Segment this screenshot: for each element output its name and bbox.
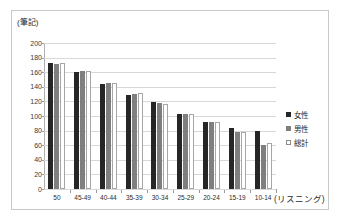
y-axis-tick-label: 180 xyxy=(20,54,42,61)
bar-group xyxy=(224,43,250,189)
legend-swatch-icon xyxy=(286,140,291,145)
bar-group xyxy=(121,43,147,189)
bar[interactable] xyxy=(255,131,260,189)
x-axis-tick-mark xyxy=(199,190,200,193)
gridline xyxy=(44,189,276,190)
legend-item-label: 女性 xyxy=(294,109,308,120)
y-axis-tick-labels: 020406080100120140160180200 xyxy=(18,43,42,189)
bar[interactable] xyxy=(163,104,168,189)
x-axis-tick-label: 45-49 xyxy=(70,194,96,202)
legend-item[interactable]: 男性 xyxy=(286,121,330,135)
y-axis-tick-mark xyxy=(41,160,44,161)
bar-group xyxy=(96,43,122,189)
y-axis-tick-label: 80 xyxy=(20,127,42,134)
y-axis-tick-mark xyxy=(41,43,44,44)
bar[interactable] xyxy=(126,95,131,189)
legend-item-label: 総計 xyxy=(294,137,308,148)
y-axis-tick-mark xyxy=(41,174,44,175)
y-axis-tick-mark xyxy=(41,101,44,102)
legend-swatch-icon xyxy=(286,112,291,117)
x-axis-tick-label: 10-14 xyxy=(250,194,276,202)
x-axis-tick-label: 50 xyxy=(44,194,70,202)
bar[interactable] xyxy=(132,94,137,189)
y-axis-tick-label: 0 xyxy=(20,186,42,193)
bar[interactable] xyxy=(183,114,188,189)
y-axis-tick-mark xyxy=(41,58,44,59)
legend-swatch-icon xyxy=(286,126,291,131)
y-axis-tick-mark xyxy=(41,87,44,88)
bar-group xyxy=(70,43,96,189)
bar[interactable] xyxy=(241,132,246,189)
legend-item[interactable]: 総計 xyxy=(286,135,330,149)
x-axis-title: (リスニング) xyxy=(274,192,325,204)
bar[interactable] xyxy=(261,145,266,189)
bar-group xyxy=(173,43,199,189)
bar[interactable] xyxy=(74,72,79,189)
y-axis-tick-label: 100 xyxy=(20,113,42,120)
x-axis-tick-label: 25-29 xyxy=(173,194,199,202)
bar[interactable] xyxy=(106,83,111,189)
y-axis-tick-label: 20 xyxy=(20,171,42,178)
y-axis-tick-mark xyxy=(41,145,44,146)
bar[interactable] xyxy=(215,122,220,189)
y-axis-tick-mark xyxy=(41,116,44,117)
bar[interactable] xyxy=(48,63,53,189)
bar-group xyxy=(250,43,276,189)
bar[interactable] xyxy=(235,132,240,189)
x-axis-tick-mark xyxy=(173,190,174,193)
x-axis-tick-label: 30-34 xyxy=(147,194,173,202)
bar[interactable] xyxy=(60,63,65,189)
x-axis-tick-mark xyxy=(276,190,277,193)
y-axis-tick-mark xyxy=(41,131,44,132)
bar[interactable] xyxy=(177,114,182,189)
chart-frame: (筆記) 020406080100120140160180200 (リスニング)… xyxy=(11,10,329,210)
bar[interactable] xyxy=(229,128,234,189)
x-axis-tick-label: 35-39 xyxy=(121,194,147,202)
y-axis-tick-label: 120 xyxy=(20,98,42,105)
bar[interactable] xyxy=(189,114,194,189)
y-axis-tick-label: 160 xyxy=(20,69,42,76)
x-axis-tick-mark xyxy=(70,190,71,193)
x-axis-tick-mark xyxy=(147,190,148,193)
bar[interactable] xyxy=(157,103,162,189)
x-axis-tick-label: 15-19 xyxy=(224,194,250,202)
bar[interactable] xyxy=(54,64,59,189)
legend-item[interactable]: 女性 xyxy=(286,107,330,121)
x-axis-tick-label: 40-44 xyxy=(96,194,122,202)
y-axis-tick-label: 200 xyxy=(20,40,42,47)
bar-group xyxy=(199,43,225,189)
x-axis-tick-mark xyxy=(250,190,251,193)
bar[interactable] xyxy=(138,93,143,189)
y-axis-tick-label: 60 xyxy=(20,142,42,149)
bar[interactable] xyxy=(151,102,156,189)
x-axis-tick-mark xyxy=(121,190,122,193)
bar[interactable] xyxy=(267,143,272,189)
bar[interactable] xyxy=(86,71,91,189)
y-axis-title: (筆記) xyxy=(17,16,38,27)
x-axis-tick-mark xyxy=(224,190,225,193)
y-axis-tick-mark xyxy=(41,72,44,73)
bar[interactable] xyxy=(112,83,117,189)
bar[interactable] xyxy=(80,71,85,189)
y-axis-tick-label: 140 xyxy=(20,83,42,90)
legend-item-label: 男性 xyxy=(294,123,308,134)
y-axis-tick-label: 40 xyxy=(20,156,42,163)
bar[interactable] xyxy=(100,84,105,189)
plot-area xyxy=(44,43,276,189)
x-axis-tick-label: 20-24 xyxy=(199,194,225,202)
chart-legend: 女性男性総計 xyxy=(286,107,330,149)
x-axis-tick-mark xyxy=(96,190,97,193)
bar[interactable] xyxy=(203,122,208,189)
bar-group xyxy=(44,43,70,189)
y-axis-tick-mark xyxy=(41,189,44,190)
bar[interactable] xyxy=(209,122,214,189)
bar-group xyxy=(147,43,173,189)
